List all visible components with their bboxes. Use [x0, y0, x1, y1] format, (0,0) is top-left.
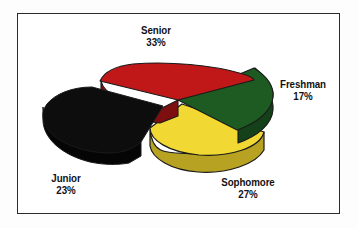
pie-label-junior: Junior 23%: [29, 172, 103, 196]
pie-label-senior: Senior 33%: [114, 24, 198, 48]
chart-page: Senior 33% Freshman 17% Sophomore 27% Ju…: [0, 0, 358, 228]
pie-slice-junior[interactable]: [43, 87, 163, 164]
pie-label-sophomore-name: Sophomore: [221, 176, 274, 188]
pie-label-sophomore-percent: 27%: [200, 188, 297, 200]
pie-label-senior-name: Senior: [141, 24, 171, 36]
pie-label-senior-percent: 33%: [114, 36, 198, 48]
pie-label-sophomore: Sophomore 27%: [200, 176, 297, 200]
pie-label-freshman-name: Freshman: [280, 78, 326, 90]
pie-label-freshman-percent: 17%: [260, 90, 346, 102]
pie-label-junior-percent: 23%: [29, 184, 103, 196]
pie-label-freshman: Freshman 17%: [260, 78, 346, 102]
pie-label-junior-name: Junior: [51, 172, 80, 184]
